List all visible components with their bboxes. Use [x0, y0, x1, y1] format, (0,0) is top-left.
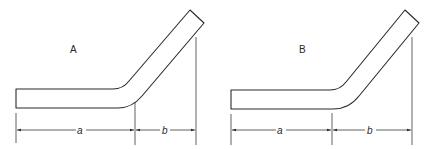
- bent-bar-b: [231, 10, 419, 109]
- bent-bar-diagram: A a b B a b: [0, 0, 430, 150]
- figure-b: B a b: [231, 10, 419, 145]
- figure-label-a: A: [70, 44, 77, 55]
- dimension-label-b: b: [162, 125, 168, 136]
- dimension-label-a: a: [277, 125, 283, 136]
- figure-label-b: B: [299, 44, 306, 55]
- dimension-label-a: a: [77, 125, 83, 136]
- figure-a: A a b: [16, 10, 204, 145]
- bent-bar-a: [16, 10, 204, 108]
- dimension-label-b: b: [367, 125, 373, 136]
